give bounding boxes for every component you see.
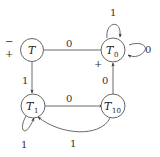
state-T: T − + — [5, 36, 44, 62]
state-T1: T 1 — [21, 94, 45, 118]
edge-T10-to-T1 — [38, 117, 110, 132]
edge-label-T10-to-T0: 0 — [102, 75, 108, 86]
edge-T0-self-loop-right — [128, 43, 145, 56]
edges: 0 1 1 0 0 0 1 1 — [21, 7, 151, 150]
state-T0-subscript: 0 — [114, 51, 118, 59]
edge-T0-self-loop-top — [107, 24, 120, 38]
state-T10-subscript: 10 — [112, 107, 121, 115]
state-T10: T 10 — [101, 94, 125, 118]
start-marker: − — [5, 36, 13, 47]
edge-label-T-to-T1: 1 — [22, 75, 28, 86]
edge-label-T1-loop: 1 — [21, 139, 27, 150]
edge-label-T10-to-T1: 1 — [70, 138, 76, 149]
state-T1-subscript: 1 — [34, 107, 38, 115]
edge-label-T1-to-T10: 0 — [66, 93, 72, 104]
state-T0: T 0 + — [94, 38, 125, 69]
edge-label-T-to-T0: 0 — [66, 38, 72, 49]
final-marker-T: + — [5, 48, 13, 59]
edge-label-T0-loop-right: 0 — [145, 44, 151, 55]
edge-label-T0-loop-top: 1 — [110, 7, 116, 18]
state-diagram: 0 1 1 0 0 0 1 1 T − + T 0 + — [0, 0, 160, 157]
final-marker-T0: + — [94, 58, 102, 69]
